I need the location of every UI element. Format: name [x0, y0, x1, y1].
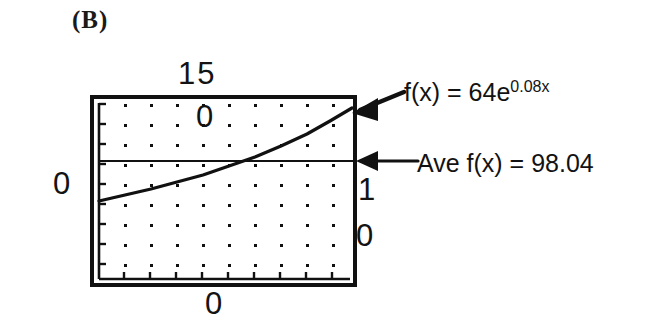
grid-dot-column — [254, 104, 257, 267]
exponential-curve — [99, 108, 352, 201]
grid-dot-column — [176, 104, 179, 267]
plot-frame-outer — [92, 97, 355, 285]
grid-dot-column — [332, 104, 335, 267]
grid-dot-column — [280, 104, 283, 267]
figure-panel: (B) 15 0 0 1 0 0 f(x) = 64e0.08x Ave f(x… — [0, 0, 671, 334]
plot-frame — [92, 97, 355, 285]
grid-dots — [124, 104, 335, 267]
arrow-to-average-line — [356, 151, 418, 171]
grid-dot-column — [202, 104, 205, 267]
arrow-to-curve — [352, 92, 404, 121]
grid-dot-column — [306, 104, 309, 267]
grid-dot-column — [228, 104, 231, 267]
grid-dot-column — [124, 104, 127, 267]
plot-canvas — [0, 0, 671, 334]
grid-dot-column — [150, 104, 153, 267]
